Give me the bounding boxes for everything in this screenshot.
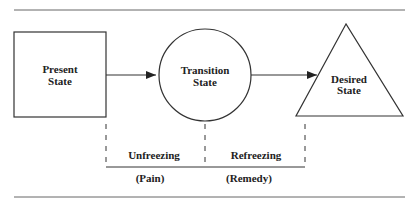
node-label: Transition [181,64,230,76]
phase-sublabel-remedy: (Remedy) [226,172,272,185]
phase-label-refreezing: Refreezing [231,149,282,161]
node-present-state: Present State [14,32,106,117]
change-model-diagram: Present State Transition State Desired S… [0,0,415,202]
phase-label-unfreezing: Unfreezing [128,149,180,161]
node-label: State [193,76,217,88]
node-label: Present [42,63,78,75]
node-transition-state: Transition State [159,29,251,121]
node-label: State [48,75,72,87]
node-label: State [337,84,361,96]
phase-sublabel-pain: (Pain) [136,172,165,185]
node-desired-state: Desired State [296,24,403,116]
